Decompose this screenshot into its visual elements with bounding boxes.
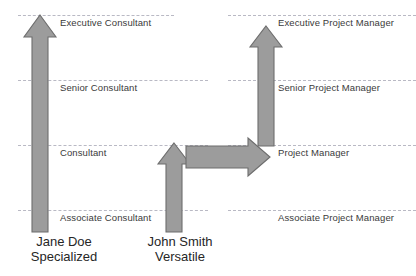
person-name-john-smith: John Smith [120, 234, 240, 249]
person-label-john-smith: John Smith Versatile [120, 234, 240, 264]
person-name-jane-doe: Jane Doe [4, 234, 124, 249]
person-descriptor-jane-doe: Specialized [4, 249, 124, 264]
career-path-diagram: Executive Consultant Senior Consultant C… [0, 0, 416, 276]
person-label-jane-doe: Jane Doe Specialized [4, 234, 124, 264]
person-descriptor-john-smith: Versatile [120, 249, 240, 264]
